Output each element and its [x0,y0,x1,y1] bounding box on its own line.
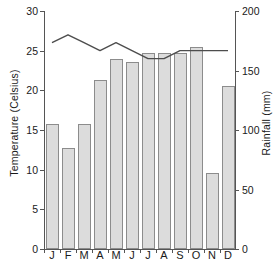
bar-S-8 [174,53,187,249]
y-left-tickmark-30 [40,11,44,12]
y-right-tickmark-100 [235,130,239,131]
y-left-tick-15: 15 [26,125,38,136]
bar-A-3 [94,80,107,249]
y-left-tick-0: 0 [32,244,38,255]
bar-N-10 [206,173,219,249]
y-left-tickmark-15 [40,130,44,131]
bar-F-1 [62,148,75,249]
bar-J-0 [46,124,59,249]
y-left-tick-10: 10 [26,164,38,175]
y-left-tickmark-10 [40,170,44,171]
y-left-tick-5: 5 [32,204,38,215]
y-axis-left-tick-labels: 051015202530 [16,0,38,271]
y-right-tick-0: 0 [242,244,248,255]
y-left-tickmark-20 [40,90,44,91]
y-right-tickmark-50 [235,190,239,191]
bar-A-7 [158,53,171,249]
y-left-tick-20: 20 [26,85,38,96]
y-right-tick-100: 100 [242,125,260,136]
x-tick-N-10: N [204,250,220,261]
x-tick-S-8: S [172,250,188,261]
x-tick-J-5: J [124,250,140,261]
bar-J-5 [126,62,139,249]
bar-J-6 [142,53,155,249]
x-tick-A-7: A [156,250,172,261]
y-left-tickmark-25 [40,51,44,52]
bar-M-4 [110,59,123,249]
x-tick-M-2: M [76,250,92,261]
x-tick-A-3: A [92,250,108,261]
x-tick-D-11: D [220,250,236,261]
x-tick-J-0: J [44,250,60,261]
bar-D-11 [222,86,235,249]
y-axis-right-tick-labels: 050100150200 [242,0,268,271]
y-left-tickmark-5 [40,209,44,210]
x-tick-J-6: J [140,250,156,261]
bar-O-9 [190,47,203,249]
x-tick-O-9: O [188,250,204,261]
y-right-tick-200: 200 [242,6,260,17]
x-tick-F-1: F [60,250,76,261]
plot-area [44,11,236,249]
y-left-tick-30: 30 [26,6,38,17]
climate-chart: Temperature (Celsius) Rainfall (mm) 0510… [0,0,277,271]
y-right-tick-150: 150 [242,65,260,76]
bar-M-2 [78,124,91,249]
x-tick-M-4: M [108,250,124,261]
y-left-tick-25: 25 [26,45,38,56]
y-right-tick-50: 50 [242,184,254,195]
y-right-tickmark-200 [235,11,239,12]
y-right-tickmark-150 [235,71,239,72]
